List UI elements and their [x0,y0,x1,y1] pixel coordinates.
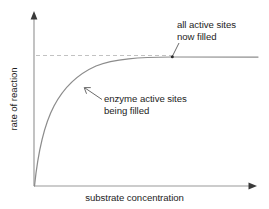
saturation-point-marker [171,55,174,58]
y-axis-label-container: rate of reaction [8,39,22,159]
annotation-filling: enzyme active sites being filled [104,93,187,117]
filling-leader-line [85,88,102,100]
reaction-rate-curve [35,57,259,186]
saturation-leader-line [173,43,180,56]
annotation-saturation-line1: all active sites [177,19,236,31]
annotation-filling-line2: being filled [104,105,187,117]
y-axis-arrow-icon [31,11,38,20]
x-axis-arrow-icon [249,183,258,190]
enzyme-kinetics-figure: all active sites now filled enzyme activ… [0,0,269,209]
annotation-saturation-line2: now filled [177,31,236,43]
x-axis-label: substrate concentration [0,192,269,203]
y-axis-label: rate of reaction [8,39,19,159]
annotation-saturation: all active sites now filled [177,19,236,43]
annotation-filling-line1: enzyme active sites [104,93,187,105]
